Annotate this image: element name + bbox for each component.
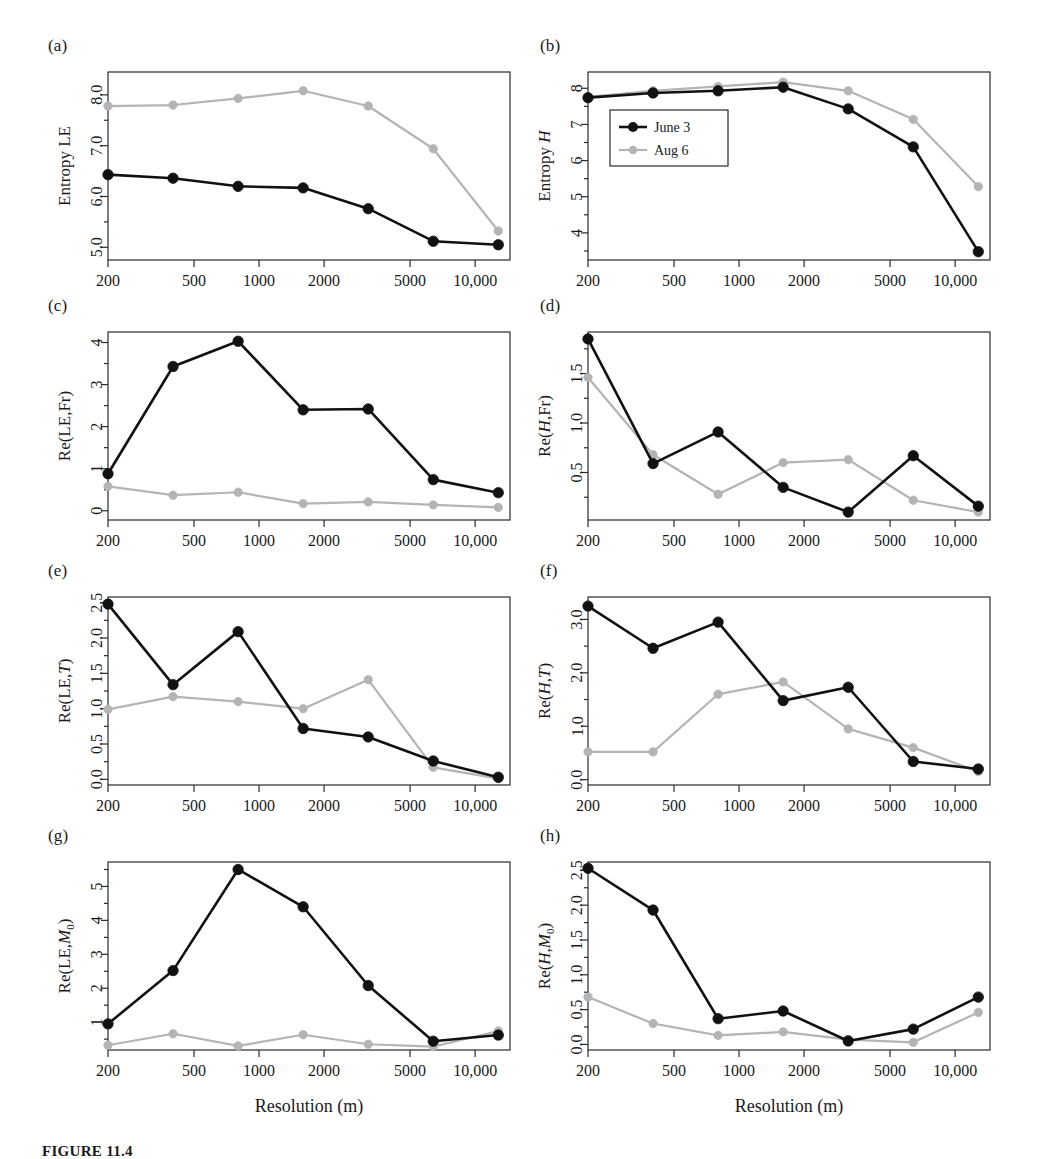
data-point [713,1013,723,1023]
data-point [233,626,243,636]
x-tick-label: 1000 [243,532,275,549]
x-tick-label: 1000 [723,797,755,814]
data-point [104,705,112,713]
data-point [103,599,113,609]
y-tick-label: 0.5 [89,734,106,754]
data-point [103,469,113,479]
x-tick-label: 500 [182,1062,206,1079]
panel-label-b: (b) [540,36,560,56]
data-point [713,427,723,437]
y-tick-label: 7.0 [89,136,106,156]
svg-text:Re(H,M0): Re(H,M0) [535,923,557,989]
x-tick-label: 500 [662,272,686,289]
data-point [103,169,113,179]
data-point [844,725,852,733]
data-point [299,87,307,95]
series-aug-6 [104,1027,503,1051]
data-point [973,501,983,511]
panel-label-c: (c) [48,296,67,316]
y-tick-label: 8.0 [89,85,106,105]
data-point [908,450,918,460]
data-point [364,102,372,110]
data-point [298,723,308,733]
legend-marker [628,122,638,132]
x-tick-label: 1000 [243,1062,275,1079]
data-point [364,498,372,506]
plot-frame [588,597,990,785]
data-point [428,1036,438,1046]
data-point [299,704,307,712]
data-point [494,227,502,235]
data-point [299,499,307,507]
x-tick-label: 500 [662,1062,686,1079]
y-tick-label: 7 [569,120,586,128]
y-tick-label: 3.0 [569,609,586,629]
data-point [363,732,373,742]
data-point [583,92,593,102]
data-point [169,491,177,499]
x-axis: 20050010002000500010,000 [96,1050,497,1079]
x-axis: 20050010002000500010,000 [96,260,497,289]
y-tick-label: 5.0 [89,237,106,257]
y-axis: 12345 [89,869,109,1039]
x-tick-label: 10,000 [453,1062,497,1079]
series-june-3 [583,82,984,257]
x-tick-label: 1000 [243,797,275,814]
svg-text:Entropy H: Entropy H [535,129,554,202]
plot-frame [108,332,510,520]
data-point [428,474,438,484]
panel-label-g: (g) [48,826,68,846]
data-point [298,902,308,912]
x-tick-label: 200 [576,797,600,814]
data-point [428,756,438,766]
data-point [233,181,243,191]
x-tick-label: 200 [576,272,600,289]
panel-label-a: (a) [48,36,67,56]
data-point [493,1030,503,1040]
data-point [363,203,373,213]
y-tick-label: 4 [569,229,586,237]
data-point [234,488,242,496]
data-point [974,1008,982,1016]
legend-label: June 3 [654,120,690,135]
x-tick-label: 500 [662,532,686,549]
x-tick-label: 5000 [874,532,906,549]
legend-box [610,110,728,166]
data-point [428,236,438,246]
svg-text:Re(H,T): Re(H,T) [535,663,554,719]
figure-root: Resolution (m)Resolution (m)FIGURE 11.4(… [0,0,1058,1159]
y-axis-title: Entropy H [535,129,554,202]
data-point [493,240,503,250]
data-point [233,336,243,346]
data-point [973,246,983,256]
y-axis-title: Re(LE,T) [55,659,74,724]
data-point [648,905,658,915]
data-point [299,1031,307,1039]
data-point [973,992,983,1002]
data-point [843,682,853,692]
data-point [909,743,917,751]
legend-label: Aug 6 [654,143,689,158]
data-point [843,1036,853,1046]
data-point [714,490,722,498]
x-tick-label: 2000 [308,797,340,814]
x-tick-label: 5000 [394,797,426,814]
plot-d: 0.51.01.520050010002000500010,000Re(H,Fr… [526,324,1002,560]
x-tick-label: 10,000 [933,797,977,814]
plot-frame [108,862,510,1050]
plot-e: 0.00.51.01.52.02.520050010002000500010,0… [46,589,522,825]
y-axis-title: Re(LE,M0) [55,919,77,994]
data-point [584,993,592,1001]
y-tick-label: 0.5 [569,1000,586,1020]
y-tick-label: 0.0 [569,1034,586,1054]
data-point [714,690,722,698]
svg-text:Entropy LE: Entropy LE [55,126,74,206]
data-point [168,965,178,975]
data-point [234,1042,242,1050]
plot-b: 4567820050010002000500010,000Entropy HJu… [526,64,1002,300]
panel-label-d: (d) [540,296,560,316]
x-axis: 20050010002000500010,000 [96,520,497,549]
y-tick-label: 6.0 [89,186,106,206]
data-point [493,772,503,782]
y-tick-label: 0 [89,507,106,515]
